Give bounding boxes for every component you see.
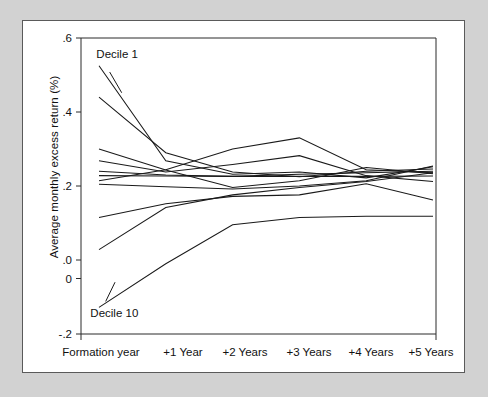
series-line	[99, 184, 433, 218]
series-group	[99, 66, 433, 308]
decile-10-leader	[106, 282, 115, 301]
y-tick-label: .2	[62, 180, 72, 192]
y-tick-label: 0	[66, 273, 72, 285]
decile-1-label: Decile 1	[96, 48, 138, 60]
x-tick-label: +4 Years	[348, 346, 393, 358]
y-tick-label: -.2	[59, 328, 72, 340]
series-line	[99, 149, 433, 187]
line-chart-plot: Decile 1Decile 10 .6.4.2.00-.2Formation …	[23, 21, 466, 374]
x-tick-label: +5 Years	[408, 346, 453, 358]
x-tick-label: +2 Years	[222, 346, 267, 358]
y-tick-label: .0	[62, 254, 72, 266]
series-line	[99, 216, 433, 307]
x-tick-label: Formation year	[62, 346, 140, 358]
chart-panel: Average monthly excess return (%) Decile…	[22, 20, 465, 373]
series-line	[99, 66, 433, 178]
figure-root: Average monthly excess return (%) Decile…	[0, 0, 488, 397]
y-tick-label: .4	[62, 106, 72, 118]
axes-group	[76, 38, 436, 340]
x-tick-label: +3 Years	[286, 346, 331, 358]
decile-10-label: Decile 10	[90, 307, 138, 319]
x-tick-label: +1 Year	[163, 346, 203, 358]
y-tick-label: .6	[62, 32, 72, 44]
annotations-group: Decile 1Decile 10	[90, 48, 138, 319]
